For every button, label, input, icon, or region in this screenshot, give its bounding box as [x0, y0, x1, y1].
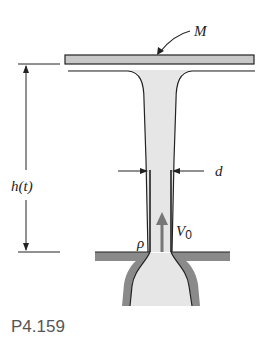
- mass-label: M: [193, 23, 208, 39]
- height-arrow-up-icon: [23, 65, 29, 73]
- figure-caption: P4.159: [11, 317, 65, 336]
- plate-mass: [65, 55, 254, 64]
- jet-supporting-plate-diagram: M h(t) d V0 ρ P4.159: [0, 0, 270, 339]
- height-arrow-down-icon: [23, 243, 29, 251]
- mass-pointer-arrow: [160, 31, 190, 52]
- jet-left-edge: [68, 71, 148, 252]
- height-label: h(t): [11, 178, 33, 195]
- diameter-label: d: [215, 163, 223, 179]
- velocity-label: V0: [176, 223, 192, 242]
- density-label: ρ: [136, 235, 144, 251]
